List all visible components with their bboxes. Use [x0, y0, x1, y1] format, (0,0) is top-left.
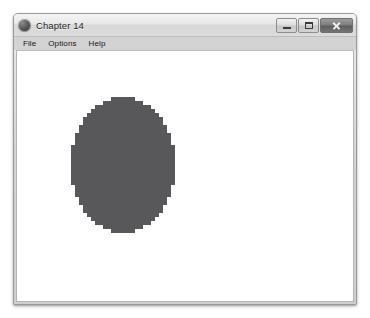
- window-title: Chapter 14: [36, 20, 276, 31]
- application-window: Chapter 14 File Options Help: [13, 13, 357, 305]
- minimize-button[interactable]: [276, 18, 297, 33]
- menu-item-options[interactable]: Options: [42, 37, 82, 50]
- app-circle-icon: [18, 19, 31, 32]
- close-icon: [332, 21, 341, 30]
- maximize-button[interactable]: [298, 18, 319, 33]
- drawing-canvas[interactable]: [17, 51, 353, 301]
- close-button[interactable]: [320, 18, 353, 33]
- window-controls: [276, 18, 353, 33]
- menu-bar: File Options Help: [14, 36, 356, 50]
- ellipse-shape: [67, 93, 179, 237]
- client-area[interactable]: [16, 50, 354, 302]
- maximize-icon: [305, 22, 313, 29]
- minimize-icon: [283, 27, 291, 29]
- title-bar[interactable]: Chapter 14: [14, 14, 356, 36]
- menu-item-file[interactable]: File: [17, 37, 42, 50]
- menu-item-help[interactable]: Help: [83, 37, 112, 50]
